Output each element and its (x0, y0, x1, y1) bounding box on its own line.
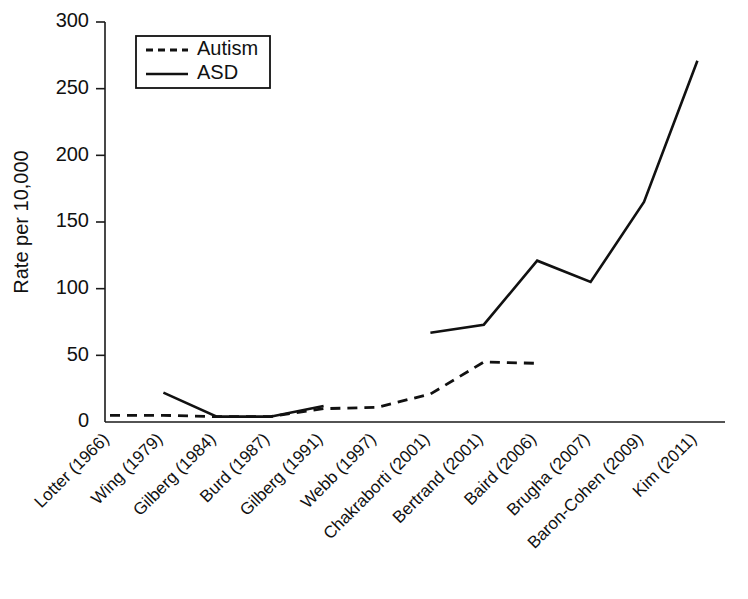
y-tick-label: 200 (56, 143, 89, 165)
series-line-asd (430, 61, 697, 333)
y-tick-label: 250 (56, 76, 89, 98)
legend-label-asd: ASD (197, 61, 238, 83)
chart-legend: AutismASD (136, 36, 270, 88)
legend-label-autism: Autism (197, 37, 258, 59)
series-line-autism (110, 362, 537, 417)
data-series-group (110, 61, 697, 417)
x-tick-label: Bertrand (2001) (389, 429, 487, 527)
y-tick-label: 50 (67, 343, 89, 365)
y-tick-label: 0 (78, 409, 89, 431)
y-tick-label: 300 (56, 9, 89, 31)
prevalence-line-chart: 050100150200250300 Rate per 10,000 Lotte… (0, 0, 748, 599)
chart-container: 050100150200250300 Rate per 10,000 Lotte… (0, 0, 748, 599)
y-axis-title: Rate per 10,000 (10, 150, 32, 293)
y-axis: 050100150200250300 (56, 9, 105, 431)
x-tick-label-group: Lotter (1966)Wing (1979)Gilberg (1984)Bu… (31, 429, 701, 552)
y-tick-label: 150 (56, 209, 89, 231)
y-tick-label: 100 (56, 276, 89, 298)
